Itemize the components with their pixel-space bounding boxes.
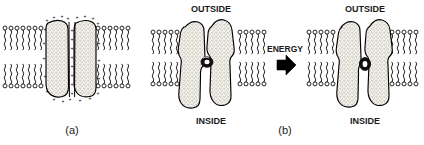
- svg-text:+: +: [70, 81, 73, 87]
- membrane-label-outside-left: OUTSIDE: [191, 4, 231, 14]
- channel-subunit-left: [46, 20, 69, 97]
- svg-text:+: +: [97, 90, 100, 96]
- panel-label-b: (b): [278, 124, 291, 136]
- svg-text:+: +: [97, 20, 100, 26]
- svg-text:+: +: [69, 96, 72, 102]
- energy-label: ENERGY: [267, 44, 303, 54]
- channel-subunit-left-open: [336, 22, 361, 108]
- svg-text:+: +: [53, 96, 56, 102]
- svg-text:+: +: [46, 17, 49, 23]
- svg-text:+: +: [70, 72, 73, 78]
- svg-text:+: +: [43, 40, 46, 46]
- svg-text:+: +: [70, 45, 73, 51]
- svg-text:+: +: [70, 63, 73, 69]
- svg-text:+: +: [98, 57, 101, 63]
- svg-text:+: +: [62, 98, 65, 104]
- svg-text:+: +: [98, 75, 101, 81]
- svg-text:+: +: [79, 97, 82, 103]
- svg-text:+: +: [67, 15, 70, 21]
- svg-text:+: +: [76, 14, 79, 20]
- membrane-label-inside-right: INSIDE: [350, 116, 380, 126]
- svg-text:+: +: [44, 73, 47, 79]
- panel-label-a: (a): [65, 124, 78, 136]
- channel-pore-open: [359, 58, 370, 71]
- svg-text:+: +: [89, 95, 92, 101]
- svg-text:+: +: [44, 26, 47, 32]
- svg-text:+: +: [70, 36, 73, 42]
- svg-text:+: +: [70, 54, 73, 60]
- svg-text:+: +: [98, 40, 101, 46]
- membrane-label-inside-left: INSIDE: [196, 116, 226, 126]
- svg-text:+: +: [61, 13, 64, 19]
- channel-gate-closed: [201, 57, 213, 67]
- svg-text:+: +: [84, 13, 87, 19]
- figure-ion-channel-gating: + + + + + + + + + + + + + + + + + + + + …: [0, 0, 424, 145]
- membrane-label-outside-right: OUTSIDE: [345, 4, 385, 14]
- channel-subunit-right: [74, 21, 96, 97]
- svg-text:+: +: [53, 14, 56, 20]
- svg-text:+: +: [43, 55, 46, 61]
- svg-text:+: +: [92, 15, 95, 21]
- svg-text:+: +: [46, 88, 49, 94]
- svg-text:+: +: [70, 27, 73, 33]
- figure-canvas: + + + + + + + + + + + + + + + + + + + + …: [0, 0, 424, 145]
